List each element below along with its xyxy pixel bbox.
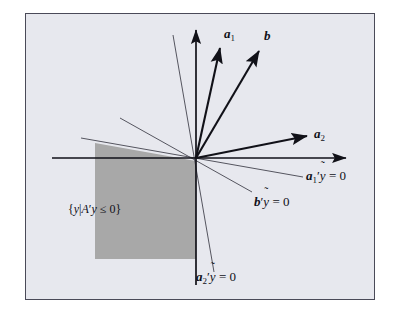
vector-label-a2-sub: 2: [321, 133, 326, 143]
vector-label-b: b: [264, 29, 271, 42]
hyperplane-label-b-rhs: = 0: [272, 194, 289, 209]
hyperplane-label-b: b′˜y = 0: [254, 195, 289, 208]
cone-set-label: {y|A′y ≤ 0}: [68, 203, 121, 215]
vector-b: [196, 51, 259, 158]
cone-set-y2: y: [91, 202, 96, 216]
cone-set-A: A: [82, 202, 89, 216]
hyperplane-label-a1: a1′˜y = 0: [306, 169, 346, 185]
hyperplane-label-a2-var-wrap: ˜y: [210, 270, 216, 283]
hyperplane-label-b-var-wrap: ˜y: [263, 195, 269, 208]
cone-shaded-region: [95, 143, 196, 259]
figure-root: a1 b a2 a1′˜y = 0 b′˜y = 0 a2′˜y = 0 {y|…: [0, 0, 415, 323]
vector-label-a2: a2: [314, 127, 325, 143]
tilde-accent-icon: ˜: [321, 161, 325, 173]
cone-set-close: }: [115, 202, 121, 216]
tilde-accent-icon: ˜: [211, 262, 215, 274]
hyperplane-label-a2: a2′˜y = 0: [196, 270, 236, 286]
vector-label-b-name: b: [264, 28, 271, 43]
hyperplane-label-a1-var-wrap: ˜y: [320, 169, 326, 182]
vector-a1: [196, 48, 220, 158]
vector-label-a1-sub: 1: [231, 33, 236, 43]
cone-set-rel: ≤ 0: [100, 202, 116, 216]
hyperplane-label-a2-rhs: = 0: [219, 269, 236, 284]
tilde-accent-icon: ˜: [264, 187, 268, 199]
hyperplane-label-a1-rhs: = 0: [329, 168, 346, 183]
vector-a2: [196, 136, 307, 158]
vector-label-a1: a1: [224, 27, 235, 43]
